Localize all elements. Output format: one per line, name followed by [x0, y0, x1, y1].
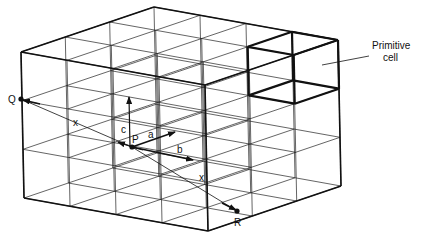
grid-line-v — [22, 56, 155, 101]
primitive-cell-edge — [338, 40, 339, 89]
grid-line-v — [68, 64, 201, 109]
translation-pr-arrowhead — [222, 203, 236, 210]
translation-x-right-label: x — [199, 172, 204, 183]
lattice-diagram: Primitive cell Q P R a b c x x — [0, 0, 422, 237]
outer-edge — [208, 186, 341, 231]
primitive-cell-label-line2: cell — [383, 52, 398, 63]
grid-line-v — [207, 137, 340, 182]
vector-a-label: a — [148, 129, 154, 140]
point-p-label: P — [132, 134, 139, 145]
primitive-cell-edge — [248, 47, 249, 96]
grid-line-v — [162, 178, 295, 223]
vector-c-arrow — [129, 97, 130, 147]
point-q-label: Q — [8, 94, 16, 105]
primitive-cell-leader-line — [322, 56, 369, 65]
primitive-cell-edge — [249, 80, 293, 95]
outer-edge — [21, 7, 154, 52]
primitive-cell-edge — [248, 32, 292, 47]
point-p — [129, 144, 134, 149]
grid-line-v — [116, 170, 249, 215]
lattice-svg: Primitive cell Q P R a b c x x — [0, 0, 422, 237]
translation-x-left-label: x — [73, 117, 78, 128]
vector-c-label: c — [121, 124, 126, 135]
primitive-cell-edge — [249, 95, 295, 103]
primitive-cell-edge — [294, 40, 338, 55]
grid-line-v — [24, 153, 157, 198]
primitive-cell-edge — [295, 89, 339, 104]
grid-line-v — [113, 24, 246, 69]
primitive-cell-edge — [248, 47, 294, 55]
primitive-cell-label-line1: Primitive — [372, 40, 411, 51]
grid-line-v — [67, 15, 200, 60]
primitive-cell-edge — [292, 32, 338, 40]
grid-line-v — [70, 161, 203, 206]
outer-edge — [21, 52, 24, 198]
grid-line-v — [114, 72, 247, 117]
primitive-cell-edge — [292, 32, 293, 81]
point-r — [234, 208, 239, 213]
vector-b-label: b — [177, 144, 183, 155]
primitive-cell-edge — [293, 80, 339, 88]
point-q — [18, 96, 23, 101]
point-r-label: R — [234, 217, 241, 228]
